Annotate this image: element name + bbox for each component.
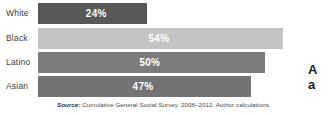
table-row: Black 54%: [0, 28, 332, 49]
category-label-asian: Asian: [6, 76, 28, 97]
category-label-black: Black: [6, 28, 28, 49]
bar-value-black: 54%: [148, 28, 169, 49]
table-row: Asian 47%: [0, 76, 332, 97]
bar-value-latino: 50%: [139, 52, 160, 73]
side-caption-line-2: a: [308, 77, 332, 92]
table-row: Latino 50%: [0, 52, 332, 73]
bar-track: 47%: [38, 76, 288, 97]
bar-track: 50%: [38, 52, 288, 73]
bar-track: 24%: [38, 3, 288, 24]
side-caption: A a: [308, 62, 332, 92]
category-label-white: White: [6, 3, 29, 24]
bar-value-white: 24%: [86, 3, 107, 24]
horizontal-bar-chart: White 24% Black 54% Latino 50% Asian 47%…: [0, 0, 332, 115]
bar-value-asian: 47%: [133, 76, 154, 97]
table-row: White 24%: [0, 3, 332, 24]
source-prefix: Source:: [57, 101, 80, 108]
source-text: Cumulative General Social Survey, 2008–2…: [82, 101, 271, 108]
category-label-latino: Latino: [6, 52, 30, 73]
side-caption-line-1: A: [308, 62, 332, 77]
bar-track: 54%: [38, 28, 288, 49]
source-note: Source: Cumulative General Social Survey…: [57, 101, 271, 108]
